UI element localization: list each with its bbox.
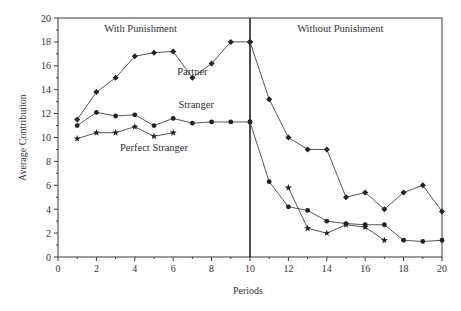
circle-marker-icon xyxy=(286,204,291,209)
line-chart: 0246810121416182002468101214161820Period… xyxy=(0,0,461,311)
annotation-label: Perfect Stranger xyxy=(120,142,188,153)
diamond-marker-icon xyxy=(151,50,157,56)
y-tick-label: 18 xyxy=(41,36,51,47)
star-marker-icon xyxy=(170,129,177,136)
series-line xyxy=(288,188,384,241)
circle-marker-icon xyxy=(401,238,406,243)
circle-marker-icon xyxy=(75,123,80,128)
star-marker-icon xyxy=(112,129,119,136)
x-tick-label: 8 xyxy=(209,263,214,274)
diamond-marker-icon xyxy=(266,96,272,102)
circle-marker-icon xyxy=(324,219,329,224)
series-line xyxy=(77,42,442,212)
x-tick-label: 6 xyxy=(171,263,176,274)
circle-marker-icon xyxy=(152,123,157,128)
circle-marker-icon xyxy=(440,238,445,243)
circle-marker-icon xyxy=(190,121,195,126)
circle-marker-icon xyxy=(209,120,214,125)
star-marker-icon xyxy=(93,129,100,136)
y-axis-label: Average Contribution xyxy=(17,94,28,181)
y-tick-label: 14 xyxy=(41,84,51,95)
y-tick-label: 16 xyxy=(41,60,51,71)
circle-marker-icon xyxy=(420,239,425,244)
series-partner xyxy=(74,39,445,215)
series-perfect-stranger-without-punishment xyxy=(285,184,388,243)
diamond-marker-icon xyxy=(74,117,80,123)
x-tick-label: 0 xyxy=(56,263,61,274)
y-tick-label: 20 xyxy=(41,13,51,24)
diamond-marker-icon xyxy=(343,194,349,200)
star-marker-icon xyxy=(74,135,81,142)
circle-marker-icon xyxy=(248,120,253,125)
star-marker-icon xyxy=(381,237,388,244)
diamond-marker-icon xyxy=(324,146,330,152)
circle-marker-icon xyxy=(171,116,176,121)
star-marker-icon xyxy=(304,225,311,232)
annotation-label: Stranger xyxy=(178,99,214,110)
circle-marker-icon xyxy=(94,110,99,115)
x-tick-label: 4 xyxy=(132,263,137,274)
y-tick-label: 10 xyxy=(41,132,51,143)
x-tick-label: 12 xyxy=(283,263,293,274)
circle-marker-icon xyxy=(132,112,137,117)
y-tick-label: 8 xyxy=(46,156,51,167)
x-tick-label: 2 xyxy=(94,263,99,274)
circle-marker-icon xyxy=(382,222,387,227)
circle-marker-icon xyxy=(267,179,272,184)
plot-frame xyxy=(58,18,442,257)
annotations: With PunishmentWithout PunishmentPartner… xyxy=(104,23,383,152)
star-marker-icon xyxy=(151,133,158,140)
diamond-marker-icon xyxy=(285,135,291,141)
series-line xyxy=(77,112,442,241)
y-tick-label: 0 xyxy=(46,252,51,263)
circle-marker-icon xyxy=(228,120,233,125)
series-line xyxy=(77,127,173,139)
diamond-marker-icon xyxy=(305,146,311,152)
annotation-label: Without Punishment xyxy=(297,23,383,34)
y-tick-label: 4 xyxy=(46,204,51,215)
x-axis-label: Periods xyxy=(233,285,263,296)
diamond-marker-icon xyxy=(439,209,445,215)
star-marker-icon xyxy=(285,184,292,191)
x-tick-label: 10 xyxy=(245,263,255,274)
y-tick-label: 12 xyxy=(41,108,51,119)
y-tick-label: 6 xyxy=(46,180,51,191)
star-marker-icon xyxy=(323,230,330,237)
diamond-marker-icon xyxy=(247,39,253,45)
x-tick-label: 14 xyxy=(322,263,332,274)
series-perfect-stranger-with-punishment xyxy=(74,123,177,141)
y-tick-label: 2 xyxy=(46,228,51,239)
x-tick-label: 16 xyxy=(360,263,370,274)
diamond-marker-icon xyxy=(170,48,176,54)
star-marker-icon xyxy=(131,123,138,130)
diamond-marker-icon xyxy=(420,182,426,188)
x-tick-label: 18 xyxy=(399,263,409,274)
axes: 0246810121416182002468101214161820Period… xyxy=(17,13,447,297)
x-tick-label: 20 xyxy=(437,263,447,274)
circle-marker-icon xyxy=(113,114,118,119)
star-marker-icon xyxy=(343,221,350,228)
series-stranger xyxy=(75,110,445,244)
circle-marker-icon xyxy=(305,208,310,213)
annotation-label: With Punishment xyxy=(104,23,177,34)
annotation-label: Partner xyxy=(177,66,208,77)
